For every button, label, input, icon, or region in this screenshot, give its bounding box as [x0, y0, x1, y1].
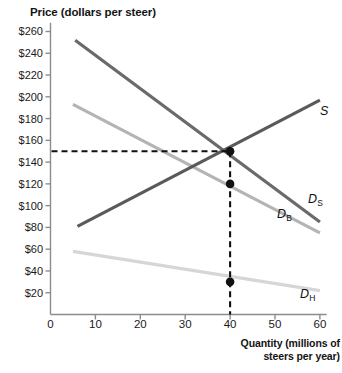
x-tick-label: 30 — [179, 318, 192, 330]
x-tick-label: 40 — [224, 318, 237, 330]
y-tick-label: $80 — [25, 221, 43, 233]
curve-label-subscript: B — [286, 213, 292, 223]
x-axis-title: Quantity (millions of steers per year) — [195, 337, 340, 363]
y-tick-label: $140 — [19, 156, 43, 168]
curve-label-subscript: S — [317, 198, 323, 208]
y-tick-label: $60 — [25, 243, 43, 255]
curve-label-D_S: DS — [308, 192, 323, 206]
x-axis-title-line1: Quantity (millions of — [241, 337, 340, 349]
y-tick-label: $160 — [19, 134, 43, 146]
curve-label-text: D — [308, 192, 317, 206]
equilibrium-point — [226, 147, 235, 156]
y-tick-label: $20 — [25, 287, 43, 299]
x-tick-label: 10 — [89, 318, 102, 330]
curve-label-text: D — [300, 287, 309, 301]
curve-D_S — [75, 40, 320, 222]
y-tick-label: $180 — [19, 113, 43, 125]
curve-label-text: D — [277, 207, 286, 221]
beef-point — [226, 180, 235, 189]
y-tick-label: $100 — [19, 200, 43, 212]
y-tick-label: $40 — [25, 265, 43, 277]
y-tick-label: $200 — [19, 91, 43, 103]
curve-label-subscript: H — [309, 293, 315, 303]
x-tick-label: 20 — [134, 318, 147, 330]
curve-label-D_H: DH — [300, 287, 315, 301]
y-tick-label: $240 — [19, 47, 43, 59]
x-tick-label: 0 — [47, 318, 53, 330]
curve-D_H — [73, 251, 320, 290]
curve-label-D_B: DB — [277, 207, 292, 221]
hamburger-point — [226, 278, 235, 287]
curve-label-S: S — [320, 104, 328, 118]
x-axis-title-line2: steers per year) — [263, 350, 340, 362]
price-quantity-chart: Price (dollars per steer) $20$40$60$80$1… — [0, 0, 342, 373]
curve-label-text: S — [320, 104, 328, 118]
y-tick-label: $120 — [19, 178, 43, 190]
y-tick-label: $260 — [19, 25, 43, 37]
x-tick-label: 50 — [269, 318, 282, 330]
x-tick-label: 60 — [313, 318, 326, 330]
y-tick-label: $220 — [19, 69, 43, 81]
